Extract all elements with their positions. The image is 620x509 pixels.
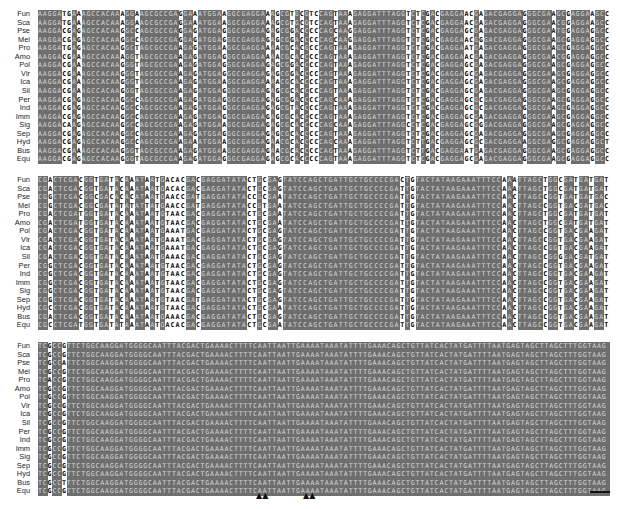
conserved-region: CTCGA <box>53 313 79 322</box>
conserved-region: GA <box>579 262 589 271</box>
variable-site: CC <box>309 138 319 147</box>
conserved-region: CG <box>38 262 48 271</box>
conserved-region: GAGGATTTAGG <box>353 19 406 28</box>
conserved-region: AGGA <box>571 87 590 96</box>
variable-site: TAAC <box>165 279 185 288</box>
alignment-row: ScaTCGCCGTTCTGGCAAGGATGGGGCAATTTACGACTGA… <box>0 351 620 360</box>
conserved-region: AA <box>338 36 348 45</box>
conserved-region: TC <box>38 436 48 445</box>
alignment-row: EquAAGGACGAGAGCCACAAGGGTAGCGCCGAAGAGATGG… <box>0 155 620 164</box>
conserved-region: ATGGA <box>198 138 222 147</box>
conserved-region: TC <box>38 402 48 411</box>
conserved-region: AGCCACAA <box>82 44 121 53</box>
conserved-region: GA <box>579 219 589 228</box>
conserved-region: GA <box>594 193 604 202</box>
variable-site: CG <box>62 61 72 70</box>
conserved-region: GACGAGGA <box>484 70 523 79</box>
conserved-region: GA <box>564 202 574 211</box>
conserved-region: AA <box>338 155 348 164</box>
conserved-region: GA <box>268 210 278 219</box>
conserved-region: GC <box>556 78 566 87</box>
conserved-region: ATGGA <box>198 113 222 122</box>
conserved-region: GAGGATTTAGG <box>353 96 406 105</box>
conserved-region: AGCCACAA <box>82 19 121 28</box>
conserved-region: AGCCACAA <box>82 36 121 45</box>
conserved-region: GA <box>186 236 196 245</box>
variable-site: C <box>605 53 610 62</box>
conserved-region: TATCCAGCTGATTGCTGCCCCGA <box>283 262 400 271</box>
alignment-row: SigAAGGACAAGAGCCACAAGGCCAGCGCCGAAGAGATGG… <box>0 121 620 130</box>
conserved-region: AA <box>338 27 348 36</box>
variable-site: CC <box>309 78 319 87</box>
conserved-region: GG <box>548 244 558 253</box>
conserved-region: GC <box>125 130 135 139</box>
variable-site: C <box>605 70 610 79</box>
variable-site: T <box>604 210 609 219</box>
variable-site: GC <box>464 138 474 147</box>
conserved-region: GAGGA <box>440 113 464 122</box>
conserved-region: CG <box>280 121 290 130</box>
conserved-region: AT <box>135 185 145 194</box>
conserved-region: AGCCACAA <box>82 130 121 139</box>
conserved-region: AAGGA <box>38 155 62 164</box>
conserved-region: GAGGATATA <box>201 210 247 219</box>
conserved-region: TC <box>38 393 48 402</box>
conserved-region: TC <box>38 487 48 496</box>
alignment-row: ScaCGACTCGACGGTGATACAAATAATGACACGACGAGGA… <box>0 185 620 194</box>
variable-site: C <box>604 193 609 202</box>
conserved-region: GGCGA <box>527 61 551 70</box>
alignment-row: SilTCGCCGTTCTGGCAAGGATGGGGCAATTTACGACTGA… <box>0 419 620 428</box>
conserved-region: GA <box>99 227 109 236</box>
conserved-region: CTCGA <box>53 270 79 279</box>
conserved-region: GA <box>564 253 574 262</box>
sequence: AAGGACGAGAGCCACAAGGCCAGCGCCGAAGAGATGGAGG… <box>38 130 610 139</box>
conserved-region: CC <box>52 359 62 368</box>
conserved-region: GC <box>125 96 135 105</box>
sequence: CGGCTCGACGGCGACACACATAATGAACCGATGAGGATAT… <box>38 193 609 202</box>
conserved-region: CTCGA <box>53 304 79 313</box>
conserved-region: GAGGATTTAGG <box>353 130 406 139</box>
conserved-region: GAGGATTTAGG <box>353 61 406 70</box>
conserved-region: GAGGATTTAGG <box>353 87 406 96</box>
conserved-region: CAG <box>319 36 334 45</box>
conserved-region: CAG <box>319 130 334 139</box>
conserved-region: CTCGA <box>53 321 79 330</box>
conserved-region: GG <box>84 227 94 236</box>
conserved-region: GAGGATATA <box>201 193 247 202</box>
alignment-row: ProAAGGATGAGAGCCACAAGGCTAGCGCCGAAGAGATGG… <box>0 44 620 53</box>
conserved-region: CAG <box>319 155 334 164</box>
sequence: TCGCCTTTCTGGCAAGGATGGGGCAATTTACGACTGAAAA… <box>38 479 610 488</box>
alignment-row: PerCGGCTCGACGGTGATACAAATAATGTAACGACGAGGA… <box>0 262 620 271</box>
species-label: Equ <box>0 155 30 164</box>
conserved-region: TACTATAAGAAATTTCC <box>416 227 503 236</box>
conserved-region: GA <box>186 262 196 271</box>
conserved-region: GA <box>594 321 604 330</box>
conserved-region: GA <box>99 321 109 330</box>
variable-site: GC <box>464 96 474 105</box>
conserved-region: GA <box>579 236 589 245</box>
conserved-region: GA <box>99 270 109 279</box>
conserved-region: GA <box>186 219 196 228</box>
conserved-region: AA <box>338 138 348 147</box>
conserved-region: GC <box>595 138 605 147</box>
conserved-region: CG <box>280 138 290 147</box>
variable-site: GC <box>464 113 474 122</box>
conserved-region: GG <box>548 270 558 279</box>
conserved-region: ATGGA <box>198 19 222 28</box>
conserved-region: CAG <box>319 53 334 62</box>
conserved-region: GACGAGGA <box>484 138 523 147</box>
conserved-region: AGCGCCGA <box>140 147 179 156</box>
conserved-region: TTAGC <box>518 321 544 330</box>
conserved-region: TC <box>38 470 48 479</box>
conserved-region: AT <box>135 304 145 313</box>
conserved-region: GC <box>556 138 566 147</box>
variable-site: T <box>604 262 609 271</box>
sequence: CGCCTCGACGGTGATACAAATAATGTAACGACGAGGATAT… <box>38 304 609 313</box>
conserved-region: AT <box>135 236 145 245</box>
conserved-region: AGGA <box>571 155 590 164</box>
conserved-region: GA <box>99 210 109 219</box>
conserved-region: GA <box>268 270 278 279</box>
conserved-region: AAGGA <box>38 44 62 53</box>
conserved-region: CC <box>52 453 62 462</box>
conserved-region: AT <box>135 176 145 185</box>
